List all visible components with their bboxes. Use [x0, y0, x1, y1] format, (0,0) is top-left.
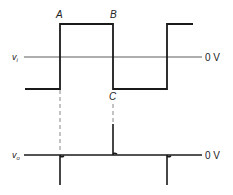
input-square-wave [25, 24, 193, 89]
alignment-guides [60, 90, 113, 153]
point-c-label: C [109, 91, 117, 102]
point-a-label: A [55, 9, 63, 20]
input-waveform-group: vi 0 V A B C [12, 9, 220, 102]
waveform-diagram: vi 0 V A B C vo 0 V [0, 0, 233, 195]
input-zero-label: 0 V [205, 52, 220, 63]
output-spike-positive-b [113, 124, 117, 155]
output-spike-negative-a [60, 155, 64, 185]
output-label: vo [12, 150, 21, 161]
point-b-label: B [110, 9, 117, 20]
output-waveform-group: vo 0 V [12, 124, 220, 185]
input-label: vi [12, 52, 19, 63]
output-spike-negative-c [167, 155, 171, 185]
output-zero-label: 0 V [205, 150, 220, 161]
